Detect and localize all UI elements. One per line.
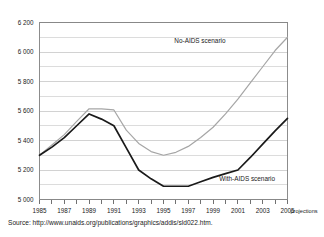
y-tick-label: 5 800 (18, 78, 34, 85)
x-tick-label: 1993 (132, 207, 147, 214)
series-lines (40, 37, 288, 186)
y-tick-label: 5 000 (18, 196, 34, 203)
source-prefix: Source: (8, 219, 31, 226)
series-annotations: No-AIDS scenarioWith-AIDS scenario (174, 37, 275, 182)
x-tick-label: 2003 (256, 207, 271, 214)
source-url: http://www.unaids.org/publications/graph… (33, 219, 213, 226)
x-tick-label: 2001 (231, 207, 246, 214)
x-tick-label: 1987 (57, 207, 72, 214)
y-tick-label: 5 600 (18, 107, 34, 114)
x-tick-label: 1985 (32, 207, 47, 214)
y-tick-label: 5 200 (18, 166, 34, 173)
y-tick-label: 6 200 (18, 19, 34, 26)
x-axis-ticks (40, 200, 288, 204)
line-chart: 6 2006 0005 8005 6005 4005 2005 000 1985… (0, 0, 324, 237)
x-tick-label: 1989 (82, 207, 97, 214)
x-tick-label: 1991 (107, 207, 122, 214)
x-tick-label: 1995 (156, 207, 171, 214)
x-axis-tick-labels: 1985198719891991199319951997199920012003… (32, 207, 295, 214)
y-axis-tick-labels: 6 2006 0005 8005 6005 4005 2005 000 (18, 19, 34, 203)
series-label: No-AIDS scenario (174, 37, 226, 44)
y-tick-label: 6 000 (18, 48, 34, 55)
chart-figure: 6 2006 0005 8005 6005 4005 2005 000 1985… (0, 0, 324, 237)
projections-note: projections (291, 208, 318, 214)
x-tick-label: 1999 (206, 207, 221, 214)
series-label: With-AIDS scenario (219, 175, 275, 182)
x-tick-label: 1997 (181, 207, 196, 214)
major-gridlines (40, 23, 288, 200)
y-tick-label: 5 400 (18, 137, 34, 144)
source-caption: Source: http://www.unaids.org/publicatio… (8, 219, 213, 226)
